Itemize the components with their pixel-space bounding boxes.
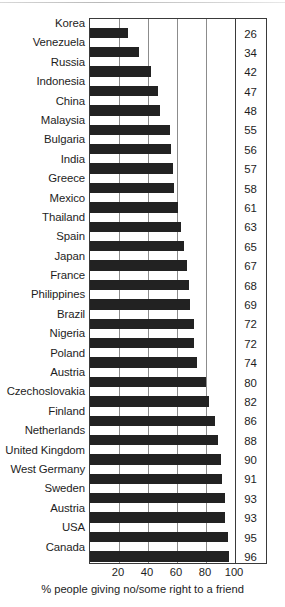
bar [90,144,171,154]
value-label: 69 [234,296,267,315]
category-label-column: KoreaVenezuelaRussiaIndonesiaChinaMalays… [0,14,85,557]
category-label: Bulgaria [0,130,85,149]
value-label: 96 [234,548,267,567]
bar [90,241,184,251]
category-label: Poland [0,344,85,363]
value-label: 95 [234,529,267,548]
value-label: 91 [234,470,267,489]
category-label: United Kingdom [0,441,85,460]
category-label: Canada [0,538,85,557]
category-label: USA [0,518,85,537]
category-label: West Germany [0,460,85,479]
bar [90,66,151,76]
category-label: Malaysia [0,111,85,130]
category-label: Netherlands [0,421,85,440]
value-label: 47 [234,83,267,102]
bar [90,319,194,329]
bar [90,105,160,115]
bar [90,454,221,464]
x-tick-label-40: 40 [141,566,153,578]
bar [90,28,128,38]
category-label: Spain [0,227,85,246]
x-axis-tick-labels: 20406080100 [89,566,267,582]
bar [90,474,222,484]
bar [90,532,228,542]
bar [90,435,218,445]
category-label: Indonesia [0,72,85,91]
category-label: Finland [0,402,85,421]
bar [90,183,174,193]
bar [90,357,197,367]
bar-chart-figure: KoreaVenezuelaRussiaIndonesiaChinaMalays… [0,0,285,607]
value-label: 86 [234,412,267,431]
value-label: 82 [234,393,267,412]
category-label: Nigeria [0,324,85,343]
value-label: 93 [234,490,267,509]
category-label: Czechoslovakia [0,382,85,401]
bar [90,202,178,212]
x-tick-label-60: 60 [170,566,182,578]
bar [90,125,170,135]
value-label: 63 [234,218,267,237]
category-label: Japan [0,247,85,266]
x-tick-label-20: 20 [112,566,124,578]
bar [90,47,139,57]
category-label: Russia [0,53,85,72]
bar [90,551,229,561]
value-label: 65 [234,238,267,257]
bar [90,377,206,387]
value-label: 55 [234,121,267,140]
value-label-column: 2634424748555657586163656768697272748082… [234,25,267,568]
category-label: Venezuela [0,33,85,52]
bar [90,396,209,406]
bar [90,299,190,309]
bar [90,260,187,270]
category-label: Austria [0,499,85,518]
category-label: Korea [0,14,85,33]
category-label: China [0,92,85,111]
value-label: 57 [234,160,267,179]
value-label: 58 [234,180,267,199]
value-label: 80 [234,374,267,393]
bar [90,416,215,426]
x-tick-label-80: 80 [199,566,211,578]
value-label: 72 [234,335,267,354]
value-label: 34 [234,44,267,63]
value-label: 90 [234,451,267,470]
bar [90,222,181,232]
value-label: 68 [234,277,267,296]
x-axis-title: % people giving no/some right to a frien… [0,583,285,595]
value-label: 74 [234,354,267,373]
x-tick-label-100: 100 [225,566,244,578]
value-label: 26 [234,25,267,44]
value-label: 67 [234,257,267,276]
category-label: Thailand [0,208,85,227]
bar [90,163,173,173]
value-label: 72 [234,315,267,334]
category-label: Philippines [0,285,85,304]
category-label: Brazil [0,305,85,324]
value-label: 42 [234,63,267,82]
bar [90,512,225,522]
value-label: 61 [234,199,267,218]
bar [90,493,225,503]
category-label: Mexico [0,189,85,208]
bar [90,280,189,290]
category-label: Austria [0,363,85,382]
category-label: Sweden [0,479,85,498]
value-label: 93 [234,509,267,528]
value-label: 88 [234,432,267,451]
value-label: 56 [234,141,267,160]
bar [90,86,158,96]
category-label: India [0,150,85,169]
value-label: 48 [234,102,267,121]
category-label: France [0,266,85,285]
category-label: Greece [0,169,85,188]
bar [90,338,194,348]
